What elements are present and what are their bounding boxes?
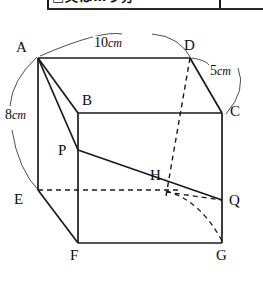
- figure-container: □又は…う分 A B C D E F G H P Q 10cm: [0, 0, 263, 293]
- dashed-edge-H-Q: [166, 192, 222, 200]
- dashed-edge-D-back: [166, 58, 190, 196]
- arc-left-lower: [12, 130, 40, 192]
- dimension-top-unit: cm: [108, 36, 122, 50]
- vertex-label-P: P: [58, 143, 66, 158]
- vertex-label-B: B: [82, 93, 92, 108]
- dimension-left-value: 8: [5, 107, 12, 122]
- dimension-label-right: 5cm: [209, 64, 232, 78]
- dimension-label-left: 8cm: [4, 108, 27, 122]
- vertex-label-E: E: [14, 192, 23, 207]
- vertex-label-A: A: [16, 40, 27, 55]
- vertex-label-H: H: [150, 168, 161, 183]
- arc-left-upper: [10, 57, 37, 106]
- vertex-label-G: G: [216, 248, 227, 263]
- vertex-label-F: F: [70, 248, 78, 263]
- dimension-label-top: 10cm: [93, 36, 123, 50]
- vertex-label-Q: Q: [229, 193, 240, 208]
- dimension-top-value: 10: [94, 35, 108, 50]
- edge-E-F: [38, 190, 78, 243]
- dimension-right-unit: cm: [217, 64, 231, 78]
- dimension-left-unit: cm: [12, 108, 26, 122]
- vertex-label-C: C: [230, 104, 240, 119]
- dimension-right-value: 5: [210, 63, 217, 78]
- vertex-label-D: D: [184, 38, 195, 53]
